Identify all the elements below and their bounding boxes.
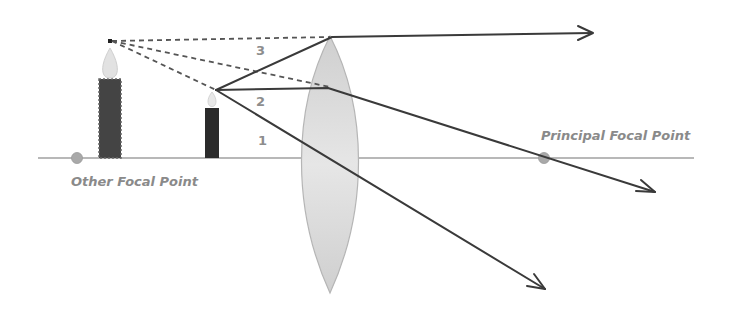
ray-diagram: 3 2 1 Principal Focal Point Other Focal … xyxy=(0,0,729,312)
ray-1 xyxy=(216,90,545,289)
candle-body xyxy=(205,108,219,158)
ray-3 xyxy=(216,33,592,90)
diagram-canvas xyxy=(0,0,729,312)
ray-number-1: 1 xyxy=(258,133,267,148)
virtual-ray-extensions xyxy=(112,37,330,90)
ray-number-3: 3 xyxy=(256,43,265,58)
virtual-image-point xyxy=(108,39,112,43)
virtual-candle-body xyxy=(99,79,121,158)
principal-focal-point-label: Principal Focal Point xyxy=(541,128,690,143)
ray-1-arrowhead xyxy=(527,274,545,289)
other-focal-point-dot xyxy=(72,153,83,164)
virtual-candle-flame-icon xyxy=(103,48,118,78)
other-focal-point-label: Other Focal Point xyxy=(71,174,198,189)
convex-lens xyxy=(302,36,359,293)
candle-flame-icon xyxy=(208,92,216,107)
ray-number-2: 2 xyxy=(256,94,265,109)
